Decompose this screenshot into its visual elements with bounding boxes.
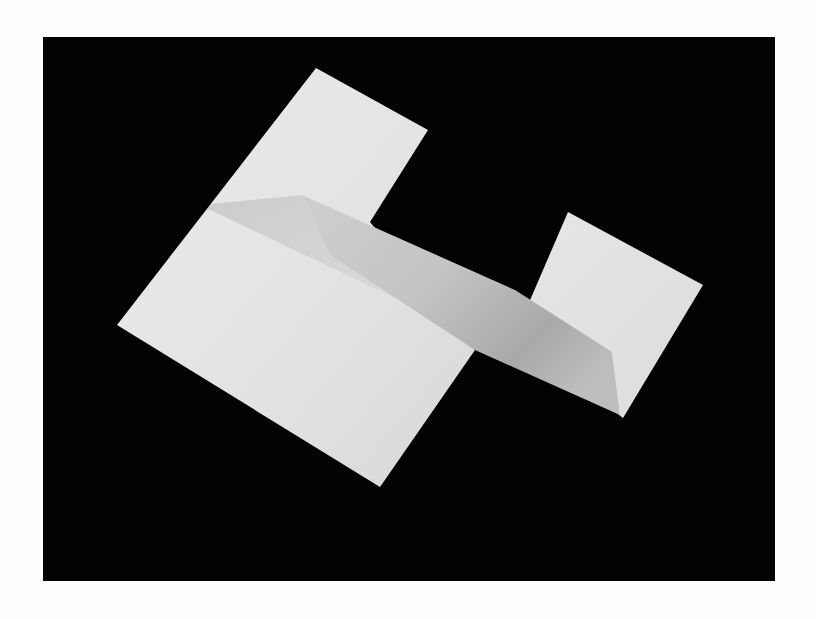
photo — [0, 0, 816, 619]
